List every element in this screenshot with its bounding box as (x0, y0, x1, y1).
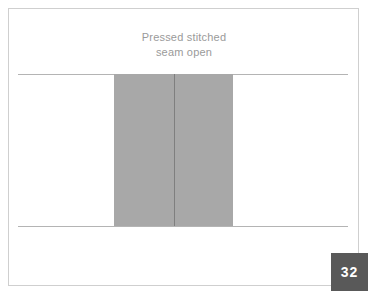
center-stitch-line (174, 74, 175, 226)
fabric-line-bottom (18, 226, 348, 227)
seam-allowance-block (114, 74, 233, 226)
page-number-badge: 32 (331, 253, 368, 291)
figure-caption: Pressed stitched seam open (0, 30, 368, 60)
figure-root: Pressed stitched seam open 32 (0, 0, 368, 295)
